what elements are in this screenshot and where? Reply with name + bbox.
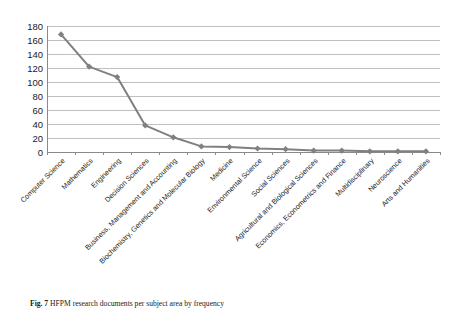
data-point-marker [339, 148, 345, 154]
line-chart: 020406080100120140160180 [0, 0, 461, 165]
data-point-marker [367, 148, 373, 154]
series-line [61, 34, 426, 151]
data-point-marker [395, 148, 401, 154]
data-point-marker [198, 143, 204, 149]
data-point-marker [311, 148, 317, 154]
x-axis-category-labels: Computer ScienceMathematicsEngineeringDe… [0, 155, 461, 295]
data-point-marker [423, 148, 429, 154]
data-point-marker [170, 134, 176, 140]
figure-caption-text: HFPM research documents per subject area… [50, 299, 224, 308]
data-series [0, 0, 461, 165]
x-axis-category-label: Computer Science [0, 157, 66, 309]
data-point-marker [226, 144, 232, 150]
figure-caption-label: Fig. 7 [30, 299, 48, 308]
figure-caption: Fig. 7 HFPM research documents per subje… [30, 299, 450, 308]
data-point-marker [254, 145, 260, 151]
figure-container: 020406080100120140160180 Computer Scienc… [0, 0, 461, 309]
data-point-marker [283, 146, 289, 152]
